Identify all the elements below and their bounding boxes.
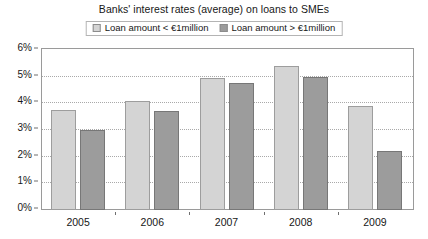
x-axis-tick-label: 2005 <box>66 216 89 228</box>
x-axis-tick-label: 2007 <box>215 216 238 228</box>
y-axis-tick-mark <box>34 74 38 75</box>
gridline <box>42 76 413 77</box>
legend-swatch-icon <box>93 24 101 32</box>
legend-item-loan-over-1m[interactable]: Loan amount > €1million <box>220 23 336 33</box>
y-axis-tick-mark <box>34 154 38 155</box>
x-axis-tick-label: 2006 <box>141 216 164 228</box>
legend-swatch-icon <box>220 24 228 32</box>
x-axis-tick-mark <box>338 212 339 215</box>
chart-container: Banks' interest rates (average) on loans… <box>0 0 428 239</box>
x-axis-tick-mark <box>264 212 265 215</box>
x-axis-tick-mark <box>189 212 190 215</box>
x-axis: 20052006200720082009 <box>41 212 414 232</box>
y-axis-tick-mark <box>34 48 38 49</box>
y-axis-tick-label: 4% <box>18 96 32 106</box>
y-axis-tick-mark <box>34 128 38 129</box>
y-axis: 0%1%2%3%4%5%6% <box>0 48 38 210</box>
y-axis-tick-label: 0% <box>18 203 32 213</box>
gridline <box>42 182 413 183</box>
y-axis-tick-label: 1% <box>18 176 32 186</box>
x-axis-tick-label: 2009 <box>363 216 386 228</box>
gridline <box>42 156 413 157</box>
x-axis-tick-label: 2008 <box>289 216 312 228</box>
legend-item-label: Loan amount > €1million <box>232 23 336 33</box>
y-axis-tick-label: 2% <box>18 150 32 160</box>
y-axis-tick-label: 6% <box>18 43 32 53</box>
y-axis-tick-mark <box>34 208 38 209</box>
y-axis-tick-label: 3% <box>18 123 32 133</box>
plot-area <box>41 48 414 210</box>
chart-title: Banks' interest rates (average) on loans… <box>0 3 428 16</box>
y-axis-tick-label: 5% <box>18 70 32 80</box>
legend-item-loan-under-1m[interactable]: Loan amount < €1million <box>93 23 209 33</box>
gridline <box>42 102 413 103</box>
y-axis-tick-mark <box>34 181 38 182</box>
legend-item-label: Loan amount < €1million <box>105 23 209 33</box>
y-axis-tick-mark <box>34 101 38 102</box>
chart-legend: Loan amount < €1million Loan amount > €1… <box>86 21 343 36</box>
gridline <box>42 129 413 130</box>
x-axis-tick-mark <box>115 212 116 215</box>
